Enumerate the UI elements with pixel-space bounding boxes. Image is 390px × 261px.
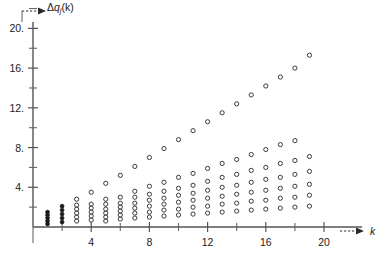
data-point <box>206 120 210 124</box>
data-point <box>60 212 64 216</box>
data-point <box>307 182 311 186</box>
data-column-k-5 <box>104 181 108 223</box>
data-point <box>220 161 224 165</box>
data-point <box>264 147 268 151</box>
data-point <box>307 169 311 173</box>
x-tick-label-8: 8 <box>146 236 152 248</box>
data-point <box>235 183 239 187</box>
data-point <box>162 208 166 212</box>
data-column-k-7 <box>133 164 137 220</box>
data-column-k-12 <box>206 120 210 216</box>
data-point <box>147 210 151 214</box>
data-point <box>176 213 180 217</box>
x-tick-label-4: 4 <box>88 236 94 248</box>
data-point <box>278 161 282 165</box>
data-point <box>133 195 137 199</box>
data-point <box>249 199 253 203</box>
data-point <box>220 185 224 189</box>
data-point <box>293 184 297 188</box>
data-point <box>206 196 210 200</box>
data-point <box>60 216 64 220</box>
data-point <box>293 66 297 70</box>
data-point <box>147 184 151 188</box>
data-point <box>147 192 151 196</box>
data-point <box>307 53 311 57</box>
data-point <box>191 191 195 195</box>
data-point <box>147 198 151 202</box>
data-point <box>264 207 268 211</box>
data-point <box>176 138 180 142</box>
data-point <box>249 168 253 172</box>
data-point <box>278 175 282 179</box>
data-point <box>249 208 253 212</box>
data-point <box>220 210 224 214</box>
y-tick-label-4: 4. <box>15 181 24 193</box>
data-point <box>162 180 166 184</box>
data-column-k-18 <box>293 66 297 209</box>
data-point <box>191 183 195 187</box>
data-point <box>307 154 311 158</box>
data-column-k-9 <box>162 146 166 218</box>
data-column-k-16 <box>264 84 268 211</box>
data-column-k-17 <box>278 75 282 210</box>
data-column-k-4 <box>89 190 93 222</box>
data-point <box>60 208 64 212</box>
data-point <box>264 198 268 202</box>
data-point <box>264 177 268 181</box>
data-point <box>220 202 224 206</box>
data-point <box>206 204 210 208</box>
data-point <box>264 188 268 192</box>
x-tick-label-16: 16 <box>260 236 272 248</box>
data-point <box>293 172 297 176</box>
data-point <box>191 198 195 202</box>
data-point <box>133 211 137 215</box>
y-tick-label-20: 20. <box>9 22 24 34</box>
data-point <box>235 201 239 205</box>
data-point <box>206 211 210 215</box>
data-point <box>249 152 253 156</box>
data-column-k-13 <box>220 111 224 214</box>
data-point <box>133 189 137 193</box>
data-point <box>235 192 239 196</box>
data-point <box>293 205 297 209</box>
data-point <box>235 157 239 161</box>
data-point <box>75 197 79 201</box>
scatter-plot-figure: 481216204.8.12.16.20. Δqj(k) k <box>0 0 390 261</box>
data-point <box>235 102 239 106</box>
data-point <box>104 202 108 206</box>
data-column-k-14 <box>235 102 239 213</box>
data-point <box>133 164 137 168</box>
data-point <box>133 216 137 220</box>
data-point <box>147 204 151 208</box>
y-axis-label-argument: (k) <box>62 1 74 13</box>
data-point <box>307 193 311 197</box>
plot-canvas: 481216204.8.12.16.20. <box>0 0 390 261</box>
data-point <box>162 214 166 218</box>
data-point <box>104 197 108 201</box>
data-point <box>118 195 122 199</box>
data-point <box>235 209 239 213</box>
data-column-k-10 <box>176 138 180 218</box>
y-axis-label-delta: Δ <box>47 1 54 13</box>
data-point <box>162 196 166 200</box>
data-point <box>206 166 210 170</box>
data-column-k-6 <box>118 173 122 221</box>
x-axis-label: k <box>370 225 375 237</box>
data-point <box>191 129 195 133</box>
data-point <box>176 200 180 204</box>
data-point <box>220 175 224 179</box>
data-point <box>249 93 253 97</box>
y-axis-arrow-icon <box>38 8 46 15</box>
data-point <box>278 186 282 190</box>
y-tick-label-8: 8. <box>15 142 24 154</box>
data-point <box>293 195 297 199</box>
data-point <box>60 204 64 208</box>
data-point <box>278 206 282 210</box>
x-tick-label-20: 20 <box>318 236 330 248</box>
data-point <box>176 193 180 197</box>
data-point <box>176 175 180 179</box>
data-point <box>249 180 253 184</box>
data-point <box>191 212 195 216</box>
data-point <box>162 189 166 193</box>
data-point <box>176 207 180 211</box>
